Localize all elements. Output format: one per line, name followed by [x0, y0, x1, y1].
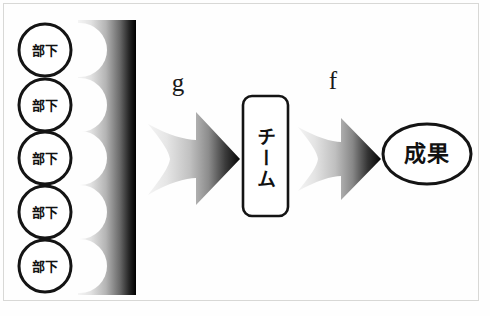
function-label-f: f	[318, 68, 348, 93]
gradient-arrow-right-icon	[298, 118, 381, 200]
team-label: チーム	[253, 110, 277, 206]
merge-bar-icon	[78, 20, 136, 295]
subordinate-label: 部下	[17, 99, 73, 112]
outcome-label: 成果	[384, 143, 470, 165]
subordinate-label: 部下	[17, 260, 73, 273]
subordinate-label: 部下	[17, 152, 73, 165]
subordinate-label: 部下	[17, 206, 73, 219]
subordinate-label: 部下	[17, 44, 73, 57]
diagram-canvas: 部下 部下 部下 部下 部下 チーム 成果 g f	[0, 0, 490, 316]
function-label-g: g	[163, 70, 193, 95]
gradient-arrow-right-icon	[148, 112, 240, 205]
